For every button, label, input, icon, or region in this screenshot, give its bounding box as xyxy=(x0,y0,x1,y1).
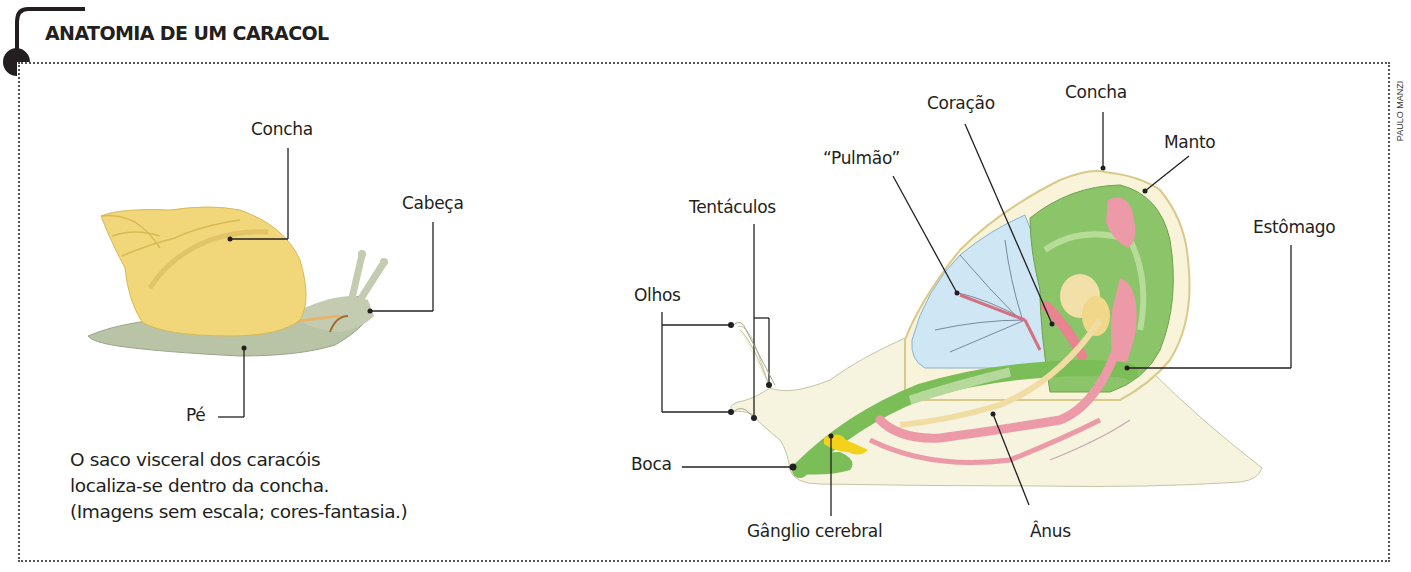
label-tentacles: Tentáculos xyxy=(689,197,776,217)
label-lung: “Pulmão” xyxy=(823,148,900,168)
label-head: Cabeça xyxy=(402,193,464,213)
label-mantle: Manto xyxy=(1164,132,1215,152)
label-cerebral-ganglion: Gânglio cerebral xyxy=(747,521,882,541)
caption-line-1: O saco visceral dos caracóis xyxy=(70,447,407,473)
label-shell-external: Concha xyxy=(251,119,313,139)
illustrator-credit: PAULO MANZI xyxy=(1393,68,1407,158)
label-stomach: Estômago xyxy=(1253,217,1335,237)
label-shell-internal: Concha xyxy=(1065,82,1127,102)
page-title: ANATOMIA DE UM CARACOL xyxy=(45,22,329,44)
caption-line-3: (Imagens sem escala; cores-fantasia.) xyxy=(70,499,407,525)
caption: O saco visceral dos caracóis localiza-se… xyxy=(70,447,407,525)
label-foot: Pé xyxy=(186,405,206,425)
label-mouth: Boca xyxy=(631,454,672,474)
caption-line-2: localiza-se dentro da concha. xyxy=(70,473,407,499)
credit-text: PAULO MANZI xyxy=(1395,66,1405,156)
label-anus: Ânus xyxy=(1030,521,1071,541)
label-eyes: Olhos xyxy=(634,285,681,305)
label-heart: Coração xyxy=(927,93,995,113)
